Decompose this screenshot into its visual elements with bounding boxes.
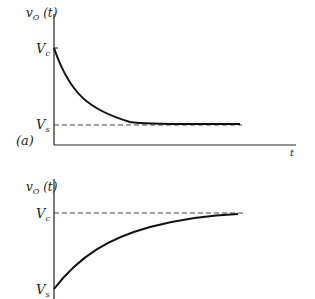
bottom-vc-label: Vc [36,207,50,223]
top-decay-curve [54,48,240,124]
top-vs-label: Vs [36,118,50,134]
top-y-axis-label: vO (t) [26,7,57,22]
top-vc-label: Vc [36,42,50,58]
panel-label-a: (a) [16,134,34,147]
bottom-y-axis-label: vO (t) [26,181,57,196]
top-x-axis-label: t [290,148,294,158]
bottom-vs-label: Vs [36,283,50,299]
bottom-rise-curve [54,214,238,289]
